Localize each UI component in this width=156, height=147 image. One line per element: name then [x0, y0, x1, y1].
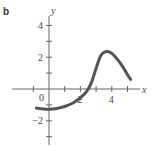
x-tick-label: 4: [109, 94, 114, 105]
origin-label: 0: [39, 92, 44, 103]
y-tick-label: −2: [32, 115, 43, 126]
chart: 240−224 x y: [0, 0, 156, 147]
data-curve: [36, 51, 130, 109]
y-tick-label: 2: [38, 52, 43, 63]
axes: 240−224: [12, 16, 140, 145]
x-axis-label: x: [141, 84, 147, 95]
y-tick-label: 4: [38, 20, 43, 31]
y-axis-label: y: [50, 5, 56, 16]
